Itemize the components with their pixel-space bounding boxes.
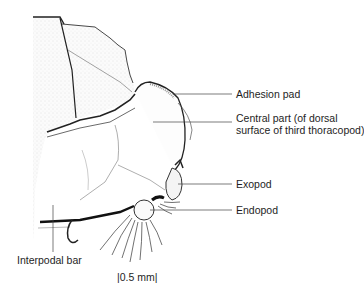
label-interpodal-bar: Interpodal bar — [17, 254, 82, 266]
label-endopod: Endopod — [236, 204, 278, 216]
scale-bar: |0.5 mm| — [117, 271, 157, 283]
label-adhesion-pad: Adhesion pad — [236, 88, 300, 100]
label-exopod: Exopod — [236, 178, 272, 190]
label-central-part: Central part (of dorsal surface of third… — [236, 112, 364, 136]
